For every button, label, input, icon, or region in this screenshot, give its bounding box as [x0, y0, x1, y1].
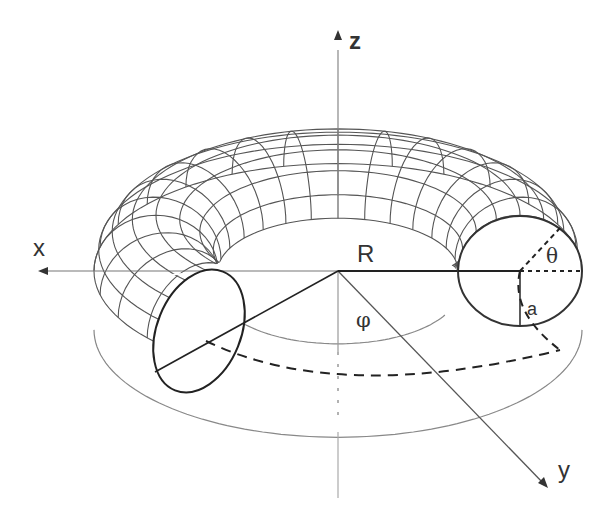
poloidal-gridline: [147, 163, 244, 238]
left-cross-section: [136, 256, 262, 406]
poloidal-gridline: [390, 282, 444, 368]
center-circle-hidden: [206, 341, 560, 375]
poloidal-gridline: [118, 179, 230, 248]
phi-label: φ: [356, 310, 371, 331]
poloidal-gridline: [284, 287, 312, 375]
poloidal-gridline: [100, 197, 221, 259]
z-axis-label: z: [349, 29, 361, 53]
x-axis-arrowhead: [38, 267, 48, 275]
theta-label: θ: [546, 246, 558, 266]
major-radius-label: R: [357, 242, 374, 266]
torus-figure: [0, 0, 610, 527]
minor-radius-label: a: [527, 300, 537, 318]
x-axis-label: x: [33, 236, 45, 260]
z-axis-arrowhead: [334, 30, 342, 40]
torus-diagram: z x y R a θ φ: [0, 0, 610, 527]
y-axis-label: y: [558, 458, 570, 482]
